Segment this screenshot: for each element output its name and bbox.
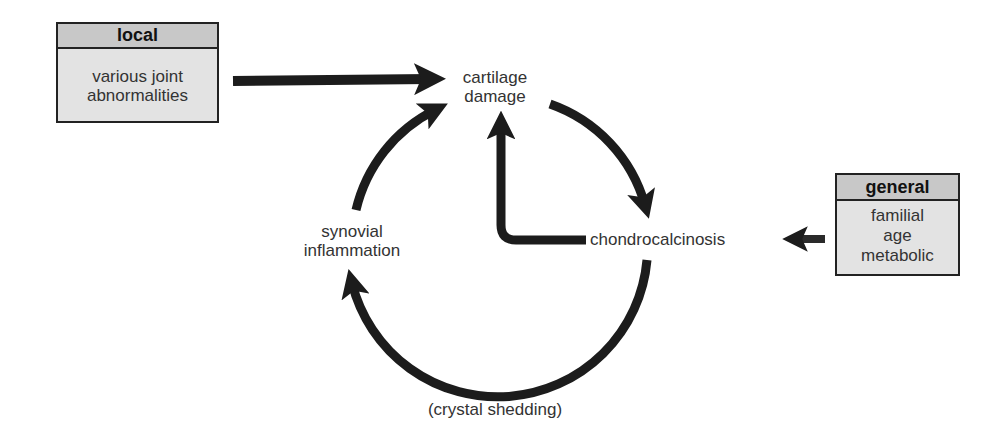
local-box-body: various joint abnormalities	[58, 49, 217, 105]
arrow-chondrocalcinosis-to-synovial	[352, 260, 647, 397]
node-synovial-inflammation: synovial inflammation	[282, 222, 422, 260]
general-box-header: general	[837, 175, 958, 201]
arrow-synovial-to-cartilage	[356, 110, 435, 210]
local-factor-line: various joint	[58, 67, 217, 86]
arrow-local-to-cartilage	[233, 79, 430, 81]
node-cartilage-damage: cartilage damage	[440, 68, 550, 106]
general-factor-line: familial	[837, 206, 958, 226]
node-label-line: damage	[440, 87, 550, 106]
edge-label-crystal-shedding: (crystal shedding)	[400, 400, 590, 419]
arrow-chondrocalcinosis-to-cartilage	[501, 125, 586, 240]
node-label-line: synovial	[282, 222, 422, 241]
general-box-body: familial age metabolic	[837, 201, 958, 266]
general-factor-line: metabolic	[837, 246, 958, 266]
general-factors-box: general familial age metabolic	[835, 173, 960, 276]
node-chondrocalcinosis: chondrocalcinosis	[590, 230, 780, 249]
arrow-cartilage-to-chondrocalcinosis	[550, 104, 645, 205]
node-label-line: inflammation	[282, 241, 422, 260]
node-label-line: cartilage	[440, 68, 550, 87]
local-box-header: local	[58, 24, 217, 49]
local-factors-box: local various joint abnormalities	[56, 22, 219, 123]
local-factor-line: abnormalities	[58, 86, 217, 105]
general-factor-line: age	[837, 226, 958, 246]
